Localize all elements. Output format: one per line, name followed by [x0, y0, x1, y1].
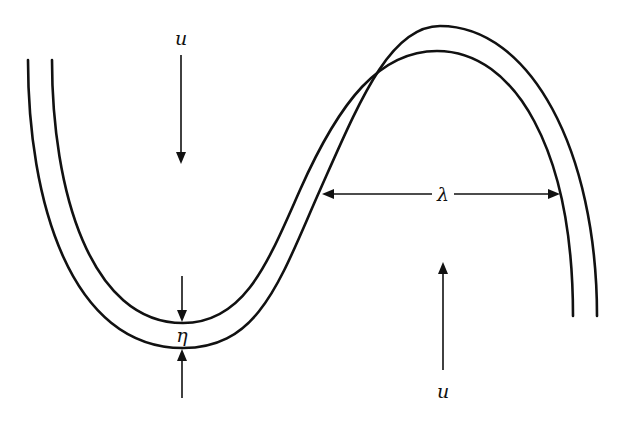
flow-arrow-down: [176, 55, 186, 164]
flow-label-top: u: [175, 27, 187, 49]
flow-label-bottom: u: [437, 380, 449, 402]
sheet-outer-edge: [28, 26, 597, 348]
thickness-arrow-bottom: [177, 349, 187, 398]
flow-arrow-up: [438, 262, 448, 370]
thickness-arrow-top: [177, 276, 187, 322]
sinuous-sheet-diagram: u η λ u: [0, 0, 621, 422]
thickness-label: η: [176, 324, 188, 346]
sheet-inner-edge: [52, 51, 573, 323]
wavelength-label: λ: [436, 183, 449, 205]
